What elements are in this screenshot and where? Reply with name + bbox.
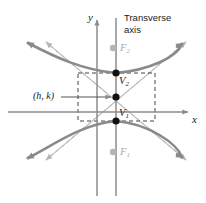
focus-lower-subscript: 1 [126, 151, 130, 159]
vertex-upper-label: V2 [119, 76, 129, 87]
hyperbola-upper-branch-arrow-left [27, 43, 34, 47]
y-axis-label: y [88, 12, 93, 23]
transverse-axis-label-line2: axis [124, 24, 141, 36]
hyperbola-figure: y x Transverse axis (h, k) V2 V1 F2 F1 [0, 0, 206, 203]
vertex-lower-label: V1 [119, 108, 129, 119]
focus-lower-point [110, 149, 116, 155]
focus-upper-subscript: 2 [126, 47, 130, 55]
hyperbola-upper-branch [28, 43, 182, 73]
hyperbola-lower-branch [28, 121, 182, 158]
vertex-lower-subscript: 1 [125, 112, 129, 120]
focus-upper-point [110, 45, 116, 51]
vertex-upper-subscript: 2 [125, 80, 129, 88]
focus-upper-label: F2 [120, 43, 130, 54]
focus-lower-label: F1 [120, 147, 130, 158]
hyperbola-lower-branch-arrow-left [27, 155, 34, 159]
hyperbola-canvas [0, 0, 206, 203]
center-point [112, 93, 119, 100]
x-axis-label: x [192, 114, 197, 125]
center-coordinates-label: (h, k) [33, 91, 54, 101]
transverse-axis-label-line1: Transverse [124, 12, 171, 24]
